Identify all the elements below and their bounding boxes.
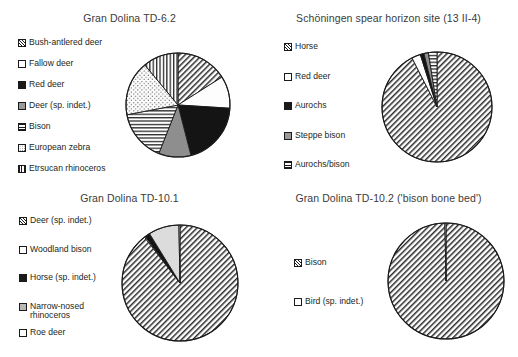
legend-item: Aurochs/bison [284, 160, 349, 170]
legend-label: Horse [295, 42, 318, 52]
chart-panel-gran-dolina-td-6-2: Gran Dolina TD-6.2 Bush-antlered deerFal… [0, 0, 259, 180]
figure-grid: Gran Dolina TD-6.2 Bush-antlered deerFal… [0, 0, 518, 357]
legend-item: Bison [294, 258, 363, 268]
pie-chart [122, 49, 234, 161]
legend-swatch-diagonal-icon [18, 39, 26, 47]
legend-label: European zebra [29, 143, 90, 153]
legend-swatch-black-icon [19, 274, 27, 282]
legend-label: Narrow-nosed rhinoceros [30, 302, 98, 321]
chart-legend: BisonBird (sp. indet.) [294, 258, 363, 306]
pie-chart [118, 221, 242, 345]
legend-label: Fallow deer [29, 59, 73, 69]
legend-item: Aurochs [284, 101, 349, 111]
legend-swatch-black-icon [18, 81, 26, 89]
legend-label: Bison [305, 258, 327, 268]
legend-swatch-gray-icon [284, 132, 292, 140]
legend-label: Roe deer [30, 328, 65, 338]
legend-swatch-diagonal-icon [19, 217, 27, 225]
chart-legend: Bush-antlered deerFallow deerRed deerDee… [18, 38, 105, 174]
chart-panel-schoningen-spear-horizon: Schöningen spear horizon site (13 II-4) … [259, 0, 518, 180]
legend-swatch-diagonal-icon [294, 259, 302, 267]
legend-item: Woodland bison [19, 245, 98, 255]
legend-item: Red deer [18, 80, 105, 90]
legend-swatch-horizontal-icon [18, 123, 26, 131]
legend-label: Red deer [29, 80, 64, 90]
chart-title: Gran Dolina TD-6.2 [0, 12, 259, 24]
legend-swatch-white-icon [19, 329, 27, 337]
legend-item: Horse [284, 42, 349, 52]
legend-swatch-dotted-icon [18, 144, 26, 152]
legend-item: Bird (sp. indet.) [294, 297, 363, 307]
legend-label: Woodland bison [30, 245, 91, 255]
legend-item: Roe deer [19, 328, 98, 338]
pie-chart [384, 219, 508, 343]
legend-label: Bison [29, 122, 51, 132]
legend-swatch-diagonal-icon [284, 43, 292, 51]
legend-label: Red deer [295, 72, 330, 82]
legend-item: Etrsucan rhinoceros [18, 164, 105, 174]
pie-chart [378, 48, 496, 166]
legend-swatch-white-icon [284, 73, 292, 81]
legend-label: Deer (sp. indet.) [29, 101, 91, 111]
chart-title: Schöningen spear horizon site (13 II-4) [259, 12, 518, 24]
legend-label: Deer (sp. indet.) [30, 216, 92, 226]
legend-swatch-horizontal-icon [284, 161, 292, 169]
chart-legend: Deer (sp. indet.)Woodland bisonHorse (sp… [19, 216, 98, 337]
chart-panel-gran-dolina-td-10-2: Gran Dolina TD-10.2 ('bison bone bed') B… [259, 180, 518, 357]
legend-item: Steppe bison [284, 131, 349, 141]
legend-item: Deer (sp. indet.) [19, 216, 98, 226]
legend-item: Bush-antlered deer [18, 38, 105, 48]
legend-label: Steppe bison [295, 131, 345, 141]
legend-label: Bird (sp. indet.) [305, 297, 363, 307]
legend-item: Red deer [284, 72, 349, 82]
legend-item: European zebra [18, 143, 105, 153]
legend-swatch-ltgray-icon [19, 303, 27, 311]
legend-label: Aurochs [295, 101, 327, 111]
legend-label: Aurochs/bison [295, 160, 349, 170]
legend-swatch-white-icon [18, 60, 26, 68]
chart-title: Gran Dolina TD-10.2 ('bison bone bed') [259, 192, 518, 204]
legend-item: Deer (sp. indet.) [18, 101, 105, 111]
chart-panel-gran-dolina-td-10-1: Gran Dolina TD-10.1 Deer (sp. indet.)Woo… [0, 180, 259, 357]
chart-title: Gran Dolina TD-10.1 [0, 192, 259, 204]
legend-swatch-white-icon [294, 298, 302, 306]
legend-item: Bison [18, 122, 105, 132]
legend-item: Horse (sp. indet.) [19, 273, 98, 283]
legend-swatch-vertical-icon [18, 165, 26, 173]
legend-swatch-white-icon [19, 246, 27, 254]
legend-swatch-gray-icon [18, 102, 26, 110]
legend-item: Fallow deer [18, 59, 105, 69]
legend-label: Horse (sp. indet.) [30, 273, 96, 283]
legend-label: Etrsucan rhinoceros [29, 164, 105, 174]
legend-label: Bush-antlered deer [29, 38, 102, 48]
legend-item: Narrow-nosed rhinoceros [19, 302, 98, 321]
chart-legend: HorseRed deerAurochsSteppe bisonAurochs/… [284, 42, 349, 170]
legend-swatch-black-icon [284, 102, 292, 110]
footer-partial-caption [0, 343, 518, 357]
